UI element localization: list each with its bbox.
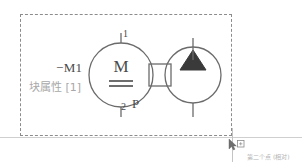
block-designation-label[interactable]: −M1 [56, 60, 82, 76]
motor-terminal-bottom-label: 2 [121, 101, 126, 112]
motor-symbol-letter: M [113, 57, 128, 76]
horizontal-guide-line [0, 137, 302, 138]
cursor-tooltip: 第二个点 (相对) [247, 152, 290, 161]
motor-port-label: P [132, 96, 139, 112]
block-attribute-label[interactable]: 块属性 [1] [29, 78, 81, 94]
motor-terminal-top-label: 1 [123, 28, 128, 39]
mouse-cursor-icon [228, 139, 246, 151]
